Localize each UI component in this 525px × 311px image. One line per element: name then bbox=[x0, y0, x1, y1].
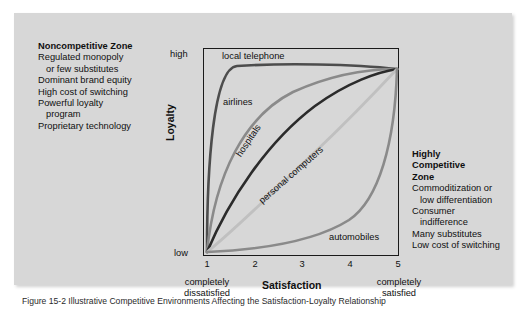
highly-competitive-zone-line: Low cost of switching bbox=[412, 240, 525, 251]
x-tick-3: 3 bbox=[292, 259, 312, 269]
figure-panel: Noncompetitive Zone Regulated monopoly o… bbox=[14, 13, 512, 285]
noncompetitive-zone-line: Dominant brand equity bbox=[38, 75, 188, 86]
noncompetitive-zone-line: Regulated monopoly bbox=[38, 52, 188, 63]
y-axis-title: Loyalty bbox=[164, 104, 176, 141]
noncompetitive-zone-line: or few substitutes bbox=[38, 64, 188, 75]
curve-label-airlines: airlines bbox=[223, 97, 252, 107]
highly-competitive-zone-heading: Zone bbox=[412, 172, 525, 183]
highly-competitive-zone-heading: Highly bbox=[412, 149, 525, 160]
x-axis-low-caption-line1: completely bbox=[162, 277, 252, 288]
highly-competitive-zone-line: indifference bbox=[412, 217, 525, 228]
highly-competitive-zone-line: low differentiation bbox=[412, 195, 525, 206]
figure-root: Noncompetitive Zone Regulated monopoly o… bbox=[0, 0, 525, 311]
highly-competitive-zone-line: Many substitutes bbox=[412, 229, 525, 240]
y-axis-low-label: low bbox=[174, 248, 188, 258]
y-axis-high-label: high bbox=[170, 49, 188, 59]
x-tick-1: 1 bbox=[197, 259, 217, 269]
highly-competitive-zone-line: Commoditization or bbox=[412, 183, 525, 194]
x-tick-5: 5 bbox=[388, 259, 408, 269]
x-axis-high-caption-line1: completely bbox=[354, 277, 444, 288]
figure-caption: Figure 15-2 Illustrative Competitive Env… bbox=[22, 296, 512, 306]
noncompetitive-zone-heading: Noncompetitive Zone bbox=[38, 41, 188, 52]
x-tick-2: 2 bbox=[245, 259, 265, 269]
highly-competitive-zone-heading: Competitive bbox=[412, 160, 525, 171]
curve-label-automobiles: automobiles bbox=[329, 232, 379, 242]
x-tick-4: 4 bbox=[340, 259, 360, 269]
highly-competitive-zone-block: Highly Competitive Zone Commoditization … bbox=[412, 149, 525, 252]
x-axis-title: Satisfaction bbox=[262, 279, 322, 291]
curve-label-local-telephone: local telephone bbox=[222, 51, 285, 61]
noncompetitive-zone-line: High cost of switching bbox=[38, 87, 188, 98]
satisfaction-loyalty-curves bbox=[203, 48, 399, 256]
highly-competitive-zone-line: Consumer bbox=[412, 206, 525, 217]
